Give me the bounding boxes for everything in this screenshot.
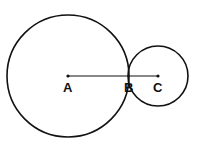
point-c — [156, 74, 159, 77]
label-b: B — [124, 81, 133, 94]
point-a — [66, 74, 69, 77]
diagram-canvas: A B C — [0, 0, 199, 144]
label-c: C — [153, 81, 162, 94]
diagram-svg — [0, 0, 199, 144]
label-a: A — [63, 81, 72, 94]
